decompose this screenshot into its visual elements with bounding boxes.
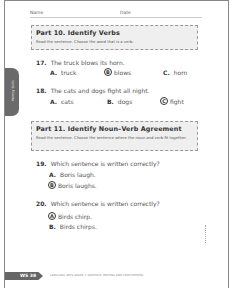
circled-letter-icon: C: [160, 97, 168, 105]
answer-option[interactable]: C.horn: [163, 69, 187, 76]
option-letter: A.: [49, 171, 56, 178]
name-date-line: Name Date: [30, 7, 202, 18]
question-number: 19.: [36, 160, 47, 167]
name-label: Name: [30, 10, 43, 15]
question-17: 17.The truck blows its horn.: [36, 59, 125, 66]
part-11-box: Part 11. Identify Noun–Verb Agreement Re…: [31, 121, 198, 151]
answer-option[interactable]: A.Boris laugh.: [49, 171, 96, 178]
question-text: Which sentence is written correctly?: [51, 160, 160, 167]
option-letter: B.: [49, 223, 56, 230]
part-title: Part 10. Identify Verbs: [36, 29, 193, 37]
answer-option-selected[interactable]: Bblows: [104, 68, 131, 76]
option-text: truck: [61, 69, 76, 76]
vertical-copyright-mark: [205, 225, 208, 243]
answer-option[interactable]: B.dogs: [107, 98, 132, 105]
question-text: Which sentence is written correctly?: [51, 200, 160, 207]
question-20: 20.Which sentence is written correctly?: [36, 200, 160, 207]
answer-option-selected[interactable]: Cfight: [160, 97, 184, 105]
question-text: The truck blows its horn.: [51, 59, 125, 66]
question-number: 18.: [36, 87, 47, 94]
date-label: Date: [120, 10, 131, 15]
part-instructions: Read the sentence. Choose the sentence w…: [36, 135, 193, 140]
option-text: cats: [61, 98, 73, 105]
answer-option-selected[interactable]: ABirds chirp.: [48, 212, 92, 220]
question-19: 19.Which sentence is written correctly?: [36, 160, 160, 167]
option-text: blows: [114, 69, 131, 76]
circled-letter-icon: A: [48, 212, 56, 220]
part-title: Part 11. Identify Noun–Verb Agreement: [36, 125, 193, 133]
option-text: fight: [170, 98, 184, 105]
option-letter: A.: [50, 69, 57, 76]
page-code: WS 38: [20, 273, 36, 278]
option-text: Boris laughs.: [58, 182, 97, 189]
answer-option[interactable]: A.truck: [50, 69, 76, 76]
question-number: 20.: [36, 200, 47, 207]
answer-option[interactable]: A.cats: [50, 98, 74, 105]
option-text: Birds chirp.: [58, 213, 92, 220]
page-code-tab: WS 38: [5, 272, 43, 280]
option-text: horn: [174, 69, 188, 76]
part-10-box: Part 10. Identify Verbs Read the sentenc…: [31, 25, 198, 50]
question-text: The cats and dogs fight all night.: [51, 87, 150, 94]
option-letter: C.: [163, 69, 170, 76]
option-letter: A.: [50, 98, 57, 105]
section-side-tab: Writing Skills: [5, 68, 19, 116]
part-instructions: Read the sentence. Choose the word that …: [36, 39, 193, 44]
option-letter: B.: [107, 98, 114, 105]
question-number: 17.: [36, 59, 47, 66]
answer-option[interactable]: B.Birds chirps.: [49, 223, 97, 230]
answer-option-selected[interactable]: BBoris laughs.: [48, 181, 97, 189]
question-18: 18.The cats and dogs fight all night.: [36, 87, 150, 94]
option-text: Birds chirps.: [60, 223, 97, 230]
footer-note: LANGUAGE ARTS GRADE 1 SENTENCE WRITING A…: [50, 274, 143, 277]
circled-letter-icon: B: [104, 68, 112, 76]
option-text: dogs: [118, 98, 132, 105]
circled-letter-icon: B: [48, 181, 56, 189]
option-text: Boris laugh.: [60, 171, 96, 178]
side-tab-label: Writing Skills: [11, 87, 15, 101]
